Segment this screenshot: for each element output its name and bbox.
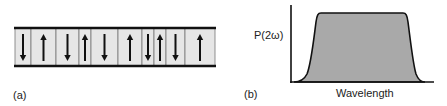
domain-down [166, 28, 185, 66]
panel-a-label: (a) [13, 89, 26, 101]
domain-up [79, 28, 91, 66]
domain-up [185, 28, 215, 66]
y-axis-label: P(2ω) [254, 29, 283, 41]
x-axis-label: Wavelength [336, 87, 394, 99]
spectrum-plot [290, 5, 434, 83]
domain-down [15, 28, 31, 66]
domain-down [91, 28, 118, 66]
spectrum-area [294, 13, 425, 82]
panel-b-label: (b) [244, 88, 257, 100]
domain-down [142, 28, 154, 66]
domain-up [118, 28, 142, 66]
domain-structure-diagram [14, 28, 216, 66]
domain-up [31, 28, 56, 66]
domain-up [154, 28, 166, 66]
domain-down [56, 28, 79, 66]
